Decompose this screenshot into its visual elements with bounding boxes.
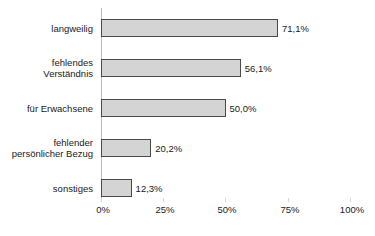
bar-value-label: 20,2% bbox=[155, 143, 182, 154]
category-label: für Erwachsene bbox=[0, 103, 93, 114]
bar-value-label: 56,1% bbox=[245, 63, 272, 74]
x-tick-label-50: 50% bbox=[217, 204, 236, 216]
category-label: sonstiges bbox=[0, 183, 93, 194]
x-tick-label-75: 75% bbox=[280, 204, 299, 216]
category-label: langweilig bbox=[0, 23, 93, 34]
bar-chart: langweilig 71,1% fehlendes Verständnis 5… bbox=[0, 0, 375, 236]
bar-container: 56,1% bbox=[101, 59, 241, 77]
x-tick-label-0: 0% bbox=[96, 204, 110, 216]
category-label: fehlender persönlicher Bezug bbox=[0, 137, 93, 159]
bar-row-fuer-erwachsene: für Erwachsene 50,0% bbox=[0, 88, 375, 128]
bar-langweilig bbox=[101, 19, 278, 37]
category-label: fehlendes Verständnis bbox=[0, 57, 93, 79]
bar-fehlender-persoenlicher-bezug bbox=[101, 139, 151, 157]
bar-sonstiges bbox=[101, 179, 132, 197]
x-tick-label-100: 100% bbox=[340, 204, 364, 216]
bar-container: 50,0% bbox=[101, 99, 226, 117]
bar-value-label: 71,1% bbox=[282, 23, 309, 34]
bar-row-langweilig: langweilig 71,1% bbox=[0, 8, 375, 48]
bar-fuer-erwachsene bbox=[101, 99, 226, 117]
bar-row-fehlendes-verstaendnis: fehlendes Verständnis 56,1% bbox=[0, 48, 375, 88]
bar-container: 20,2% bbox=[101, 139, 151, 157]
x-axis-tick-labels: 0% 25% 50% 75% 100% bbox=[0, 204, 375, 220]
bar-value-label: 12,3% bbox=[136, 183, 163, 194]
x-tick-label-25: 25% bbox=[155, 204, 174, 216]
bar-row-sonstiges: sonstiges 12,3% bbox=[0, 168, 375, 208]
bar-container: 12,3% bbox=[101, 179, 132, 197]
bar-fehlendes-verstaendnis bbox=[101, 59, 241, 77]
bar-container: 71,1% bbox=[101, 19, 278, 37]
bar-value-label: 50,0% bbox=[230, 103, 257, 114]
bar-row-fehlender-persoenlicher-bezug: fehlender persönlicher Bezug 20,2% bbox=[0, 128, 375, 168]
